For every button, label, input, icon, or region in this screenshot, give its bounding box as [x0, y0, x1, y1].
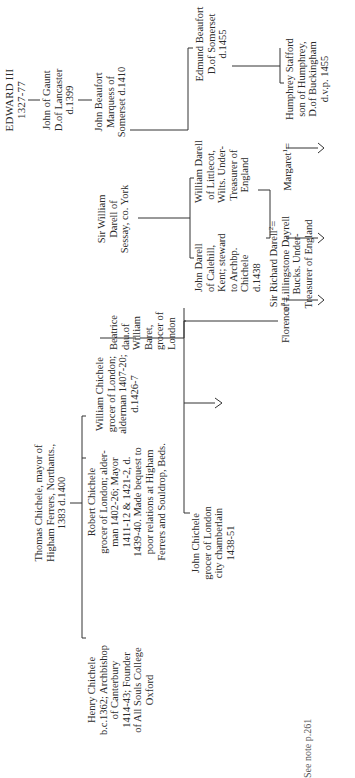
person-humphrey-stafford: Humphrey Stafford son of Humphrey, D.of …	[284, 23, 330, 135]
genealogy-diagram: EDWARD III 1327-77 John of Gaunt D.of La…	[0, 0, 355, 778]
person-edmund-beaufort: Edmund Beaufort D.of Somerset d.1455	[194, 2, 229, 86]
person-robert-chichele: Robert Chichele grocer of London; alder-…	[86, 438, 167, 566]
person-thomas-chichele: Thomas Chichele, mayor of Higham Ferrers…	[33, 441, 68, 565]
person-henry-chichele: Henry Chichele b.c.1362; Archbishop of C…	[86, 638, 156, 742]
person-william-darell-littlecot: William Darell of Littlecot, Wilts. Unde…	[193, 147, 251, 203]
person-john-beaufort: John Beaufort Marquess of Somerset d.141…	[93, 56, 128, 148]
marriage-symbol: =	[280, 297, 291, 303]
marriage-symbol: =	[268, 221, 279, 227]
person-john-chichele: John Chichele grocer of London city cham…	[190, 504, 236, 582]
person-john-darell-calehill: John Darell of Calehill, Kent; steward t…	[193, 226, 263, 292]
person-william-chichele: William Chichele grocer of London; alder…	[94, 346, 140, 442]
footnote-see-note: See note p.261	[302, 719, 313, 778]
marriage-symbol: =	[282, 143, 293, 149]
person-edward-iii: EDWARD III 1327-77	[4, 55, 27, 145]
person-margaret: Margaret1=	[282, 140, 294, 194]
person-sir-william-darell: Sir William Darell of Sessay, co. York	[96, 163, 131, 275]
person-florence: Florence3=	[280, 295, 292, 345]
person-beatrice: Beatrice dau.of William Baret, grocer of…	[108, 306, 178, 350]
person-john-of-gaunt: John of Gaunt D.of Lancaster d.1399	[41, 58, 76, 142]
